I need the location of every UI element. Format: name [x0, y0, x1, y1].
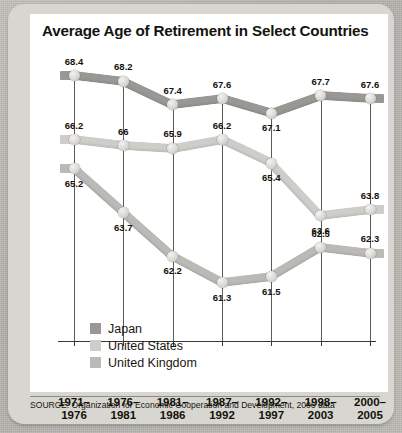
legend-label: United States: [108, 339, 183, 353]
data-label: 62.3: [361, 233, 380, 244]
data-label: 65.4: [262, 172, 281, 183]
axis-tick: [370, 341, 371, 346]
chart-card: Average Age of Retirement in Select Coun…: [30, 14, 388, 392]
data-point: [118, 140, 129, 151]
data-label: 68.4: [65, 56, 84, 67]
legend-item-united-states[interactable]: United States: [90, 337, 197, 354]
data-label: 61.3: [213, 292, 232, 303]
gridline: [173, 105, 174, 341]
data-point: [217, 93, 228, 104]
legend-item-japan[interactable]: Japan: [90, 320, 197, 337]
data-label: 67.7: [311, 76, 330, 87]
data-point: [217, 277, 228, 288]
data-point: [365, 204, 376, 215]
legend-swatch-icon: [90, 357, 101, 368]
data-label: 62.2: [163, 265, 182, 276]
x-label-line2: 1997: [255, 409, 287, 422]
data-label: 63.8: [361, 190, 380, 201]
data-label: 62.5: [311, 228, 330, 239]
source-divider: [30, 396, 380, 397]
data-label: 63.7: [114, 222, 133, 233]
x-label-line2: 1992: [206, 409, 238, 422]
data-label: 65.2: [65, 178, 84, 189]
legend-swatch-icon: [90, 323, 101, 334]
axis-tick: [74, 341, 75, 346]
data-point: [69, 70, 80, 81]
figure-frame: Average Age of Retirement in Select Coun…: [8, 4, 394, 424]
data-point: [365, 248, 376, 259]
data-label: 61.5: [262, 286, 281, 297]
gridline: [370, 99, 371, 341]
data-point: [365, 93, 376, 104]
data-label: 68.2: [114, 61, 133, 72]
series-segment: [221, 95, 273, 118]
data-label: 67.1: [262, 122, 281, 133]
axis-tick: [222, 341, 223, 346]
axis-tick: [271, 341, 272, 346]
gridline: [271, 113, 272, 341]
series-segment: [268, 160, 324, 219]
x-label-line2: 2005: [354, 409, 386, 422]
axis-tick: [321, 341, 322, 346]
legend-swatch-icon: [90, 340, 101, 351]
chart-legend: JapanUnited StatesUnited Kingdom: [90, 320, 197, 371]
data-point: [266, 158, 277, 169]
data-point: [217, 134, 228, 145]
series-segment: [320, 205, 370, 220]
chart-title: Average Age of Retirement in Select Coun…: [42, 22, 369, 39]
legend-label: United Kingdom: [108, 356, 197, 370]
gridline: [74, 76, 75, 341]
x-label-line2: 1981: [107, 409, 139, 422]
series-segment: [172, 94, 222, 109]
data-label: 67.4: [163, 85, 182, 96]
x-label-line2: 2003: [305, 409, 337, 422]
data-label: 67.6: [361, 79, 380, 90]
data-label: 66.2: [65, 120, 84, 131]
data-point: [118, 207, 129, 218]
legend-item-united-kingdom[interactable]: United Kingdom: [90, 354, 197, 371]
series-segment: [320, 91, 370, 103]
data-point: [69, 134, 80, 145]
source-note: SOURCE: Organization for Economic Cooper…: [30, 400, 388, 410]
plot-area: 68.468.267.467.667.167.767.666.26665.966…: [30, 44, 388, 362]
series-segment: [73, 135, 123, 150]
legend-label: Japan: [108, 322, 142, 336]
series-segment: [320, 243, 370, 258]
data-label: 65.9: [163, 128, 182, 139]
data-point: [167, 251, 178, 262]
data-point: [266, 108, 277, 119]
x-label-line2: 1976: [58, 409, 90, 422]
series-segment: [73, 71, 123, 86]
data-point: [118, 76, 129, 87]
data-point: [69, 163, 80, 174]
x-label-line2: 1986: [157, 409, 189, 422]
data-label: 67.6: [213, 79, 232, 90]
data-label: 66.2: [213, 120, 232, 131]
data-point: [266, 271, 277, 282]
data-label: 66: [118, 126, 129, 137]
series-segment: [123, 141, 173, 153]
